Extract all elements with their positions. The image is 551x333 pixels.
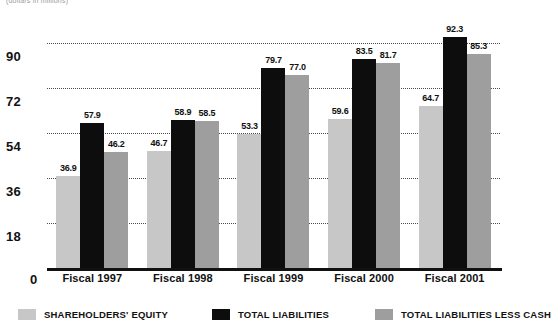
legend-item[interactable]: TOTAL LIABILITIES xyxy=(212,309,329,320)
y-tick-zero: 0 xyxy=(30,272,37,287)
legend-label: TOTAL LIABILITIES LESS CASH xyxy=(401,309,551,320)
x-axis-label: Fiscal 2001 xyxy=(409,272,500,290)
bar-value-label: 58.9 xyxy=(175,107,192,117)
legend-swatch xyxy=(375,309,393,320)
x-axis-label: Fiscal 1998 xyxy=(138,272,229,290)
bar-value-label: 79.7 xyxy=(265,55,282,65)
y-tick-label: 72 xyxy=(6,93,21,108)
bar[interactable]: 77.0 xyxy=(285,75,309,268)
legend-swatch xyxy=(18,309,36,320)
bar-value-label: 58.5 xyxy=(199,108,216,118)
bar[interactable]: 58.5 xyxy=(195,121,219,268)
bar-group: 64.792.385.3 xyxy=(409,20,500,268)
bar-value-label: 46.2 xyxy=(108,139,125,149)
bar[interactable]: 85.3 xyxy=(467,54,491,268)
bar[interactable]: 46.7 xyxy=(147,151,171,268)
legend-label: TOTAL LIABILITIES xyxy=(238,309,329,320)
bar[interactable]: 83.5 xyxy=(352,59,376,268)
bar-value-label: 59.6 xyxy=(332,106,349,116)
bar[interactable]: 64.7 xyxy=(419,106,443,268)
clipped-caption-text: (dollars in millions) xyxy=(6,0,96,4)
bar[interactable]: 53.3 xyxy=(237,134,261,268)
bar-value-label: 77.0 xyxy=(289,62,306,72)
bar-group-bars: 53.379.777.0 xyxy=(228,20,319,268)
bar-value-label: 57.9 xyxy=(84,110,101,120)
x-axis-label: Fiscal 1999 xyxy=(228,272,319,290)
legend-item[interactable]: TOTAL LIABILITIES LESS CASH xyxy=(375,309,551,320)
y-tick-label: 54 xyxy=(6,138,21,153)
bar-value-label: 36.9 xyxy=(60,163,77,173)
y-tick-label: 90 xyxy=(6,48,21,63)
bar[interactable]: 46.2 xyxy=(104,152,128,268)
bar-value-label: 81.7 xyxy=(380,50,397,60)
y-tick-label: 36 xyxy=(6,183,21,198)
axis-baseline xyxy=(47,268,502,271)
legend-label: SHAREHOLDERS' EQUITY xyxy=(44,309,168,320)
bar-group: 59.683.581.7 xyxy=(319,20,410,268)
bar-group: 53.379.777.0 xyxy=(228,20,319,268)
bar-group-bars: 59.683.581.7 xyxy=(319,20,410,268)
legend-swatch xyxy=(212,309,230,320)
clipped-caption: (dollars in millions) xyxy=(6,0,96,6)
x-axis-label: Fiscal 1997 xyxy=(47,272,138,290)
x-axis-labels: Fiscal 1997Fiscal 1998Fiscal 1999Fiscal … xyxy=(47,272,500,290)
bar[interactable]: 79.7 xyxy=(261,68,285,268)
x-axis-label: Fiscal 2000 xyxy=(319,272,410,290)
bar[interactable]: 59.6 xyxy=(328,119,352,268)
bar-value-label: 46.7 xyxy=(151,138,168,148)
bar-groups: 36.957.946.246.758.958.553.379.777.059.6… xyxy=(47,20,500,268)
bar-value-label: 92.3 xyxy=(446,24,463,34)
bar[interactable]: 58.9 xyxy=(171,120,195,268)
chart-legend: SHAREHOLDERS' EQUITYTOTAL LIABILITIESTOT… xyxy=(10,303,504,325)
bar[interactable]: 57.9 xyxy=(80,123,104,268)
legend-item[interactable]: SHAREHOLDERS' EQUITY xyxy=(18,309,168,320)
bar-group-bars: 36.957.946.2 xyxy=(47,20,138,268)
bar[interactable]: 92.3 xyxy=(443,37,467,268)
y-tick-label: 18 xyxy=(6,228,21,243)
bar-group: 46.758.958.5 xyxy=(138,20,229,268)
bar-group-bars: 46.758.958.5 xyxy=(138,20,229,268)
bar[interactable]: 81.7 xyxy=(376,63,400,268)
bar-value-label: 83.5 xyxy=(356,46,373,56)
bar-value-label: 53.3 xyxy=(241,121,258,131)
bar-value-label: 64.7 xyxy=(422,93,439,103)
bar-value-label: 85.3 xyxy=(470,41,487,51)
bar[interactable]: 36.9 xyxy=(56,176,80,268)
bar-group: 36.957.946.2 xyxy=(47,20,138,268)
bar-group-bars: 64.792.385.3 xyxy=(409,20,500,268)
